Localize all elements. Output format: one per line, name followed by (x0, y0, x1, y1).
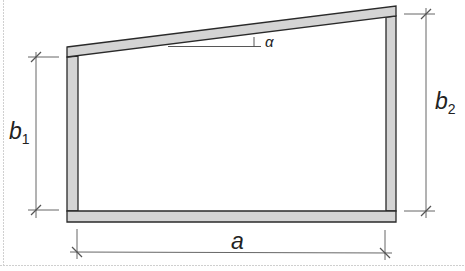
b1-base: b (9, 118, 22, 144)
b2-base: b (435, 88, 448, 114)
frame (67, 6, 396, 222)
left-wall (67, 56, 78, 211)
dimension-b2 (404, 8, 435, 218)
top-beam (67, 6, 396, 57)
angle-label: α (265, 33, 274, 50)
b2-label: b2 (435, 88, 456, 117)
a-label: a (231, 228, 244, 254)
right-wall (386, 16, 396, 211)
frame-diagram: α b1 b2 a (0, 0, 465, 271)
b1-subscript: 1 (22, 131, 30, 147)
bottom-beam (67, 211, 396, 222)
dimension-b1 (28, 52, 59, 218)
b1-label: b1 (9, 118, 30, 147)
b2-subscript: 2 (448, 101, 456, 117)
